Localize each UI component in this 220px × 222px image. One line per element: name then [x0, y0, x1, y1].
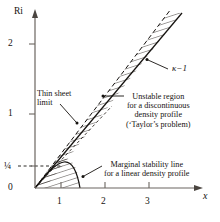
x-tick-2: 2 [101, 196, 106, 207]
annotation-thin-sheet-limit: Thin sheet limit [37, 89, 71, 107]
y-axis-label: Ri [14, 6, 23, 17]
unstable-line-3: density profile [126, 110, 191, 119]
y-tick-1: 1 [8, 108, 13, 119]
x-tick-1: 1 [57, 196, 62, 207]
annotation-unstable-region: Unstable region for a discontinuous dens… [126, 92, 191, 129]
y-tick-2: 2 [8, 38, 13, 49]
annotation-kappa: κ−1 [172, 63, 187, 73]
unstable-line-1: Unstable region [126, 92, 191, 101]
x-axis-label: x [203, 190, 207, 201]
unstable-line-2: for a discontinuous [126, 101, 191, 110]
unstable-line-4: (‘Taylor’s problem) [126, 120, 191, 129]
y-tick-quarter: ¼ [4, 161, 11, 172]
thin-sheet-line-1: Thin sheet [37, 89, 71, 98]
marginal-line-1: Marginal stability line [104, 160, 189, 169]
marginal-line-2: for a linear density profile [104, 169, 189, 178]
annotation-marginal-stability: Marginal stability line for a linear den… [104, 160, 189, 178]
thin-sheet-line-2: limit [37, 98, 71, 107]
x-tick-3: 3 [145, 196, 150, 207]
y-tick-0: 0 [8, 182, 13, 193]
